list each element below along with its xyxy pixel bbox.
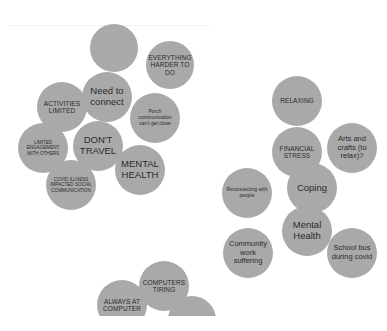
- bubble-label: COMPUTERS TIRING: [143, 279, 185, 294]
- sticky-bubble-canvas: Need to connectEVERYTHING HARDER TO DOAC…: [0, 0, 387, 331]
- bubble-label: ALWAYS AT COMPUTER: [101, 298, 143, 313]
- cluster-bottom-clip: COMPUTERS TIRINGALWAYS AT COMPUTER: [0, 0, 387, 316]
